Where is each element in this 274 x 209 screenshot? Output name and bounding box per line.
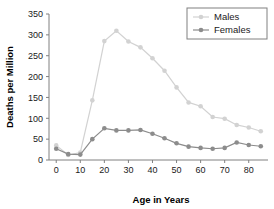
- data-point: [210, 146, 215, 151]
- data-point: [210, 115, 215, 120]
- legend-label: Males: [214, 11, 240, 22]
- data-point: [114, 128, 119, 133]
- data-point: [126, 128, 131, 133]
- data-point: [78, 152, 83, 157]
- x-axis: 01020304050607080: [49, 160, 268, 175]
- y-axis-tick-label: 200: [28, 72, 43, 82]
- line-chart: 050100150200250300350 01020304050607080 …: [0, 0, 274, 209]
- data-point: [102, 39, 107, 44]
- y-axis-tick-label: 250: [28, 51, 43, 61]
- data-point: [102, 126, 107, 131]
- y-axis-title: Deaths per Million: [4, 46, 15, 128]
- data-point: [246, 125, 251, 130]
- data-point: [138, 128, 143, 133]
- data-point: [138, 45, 143, 50]
- y-axis-tick-label: 150: [28, 93, 43, 103]
- x-axis-tick-label: 60: [196, 165, 206, 175]
- data-point: [150, 131, 155, 136]
- x-axis-tick-label: 30: [123, 165, 133, 175]
- y-axis-tick-label: 100: [28, 114, 43, 124]
- data-point: [150, 56, 155, 61]
- legend-label: Females: [214, 24, 251, 35]
- data-point: [126, 39, 131, 44]
- data-point: [114, 28, 119, 33]
- chart-container: 050100150200250300350 01020304050607080 …: [0, 0, 274, 209]
- y-axis-tick-label: 300: [28, 30, 43, 40]
- data-point: [258, 129, 263, 134]
- data-point: [90, 137, 95, 142]
- x-axis-tick-label: 20: [99, 165, 109, 175]
- data-point: [174, 85, 179, 90]
- data-series-group: [54, 28, 263, 157]
- data-point: [234, 140, 239, 145]
- data-point: [66, 152, 71, 157]
- data-point: [222, 146, 227, 151]
- data-point: [174, 141, 179, 146]
- legend-marker: [199, 28, 204, 33]
- data-point: [198, 104, 203, 109]
- data-point: [234, 123, 239, 128]
- y-axis-tick-label: 50: [33, 134, 43, 144]
- data-point: [198, 146, 203, 151]
- data-point: [222, 116, 227, 121]
- x-axis-tick-label: 80: [244, 165, 254, 175]
- series-males: [54, 28, 263, 157]
- x-axis-tick-label: 50: [172, 165, 182, 175]
- y-axis: 050100150200250300350: [28, 9, 49, 165]
- y-axis-tick-label: 0: [38, 155, 43, 165]
- y-axis-tick-label: 350: [28, 9, 43, 19]
- series-line: [56, 128, 261, 154]
- chart-legend: MalesFemales: [187, 8, 267, 39]
- data-point: [186, 100, 191, 105]
- x-axis-title: Age in Years: [133, 194, 190, 205]
- legend-marker: [199, 15, 204, 20]
- data-point: [90, 98, 95, 103]
- x-axis-tick-label: 70: [220, 165, 230, 175]
- x-axis-tick-label: 10: [75, 165, 85, 175]
- data-point: [186, 144, 191, 149]
- data-point: [162, 68, 167, 73]
- data-point: [246, 143, 251, 148]
- data-point: [162, 136, 167, 141]
- data-point: [258, 144, 263, 149]
- x-axis-tick-label: 40: [147, 165, 157, 175]
- data-point: [54, 146, 59, 151]
- x-axis-tick-label: 0: [54, 165, 59, 175]
